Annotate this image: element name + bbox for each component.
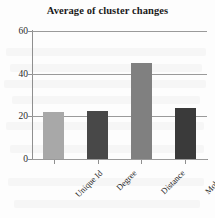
plot-area [32, 31, 207, 159]
x-axis-category-label: Mobility [203, 168, 215, 196]
chart-title: Average of cluster changes [0, 5, 215, 16]
y-axis-tick-mark [28, 74, 32, 75]
y-axis-tick-label: 40 [4, 69, 28, 79]
x-axis-category-label: Unique Id [73, 168, 104, 199]
gridline [32, 159, 207, 160]
bar [87, 111, 108, 159]
y-axis-tick-labels: 0204060 [0, 0, 28, 218]
y-axis-tick-mark [28, 116, 32, 117]
y-axis-tick-label: 20 [4, 111, 28, 121]
y-axis-tick-label: 0 [4, 154, 28, 164]
x-axis-tick-mark [141, 160, 142, 164]
bar-chart-figure: Average of cluster changes 0204060 Uniqu… [0, 0, 215, 218]
y-axis-tick-mark [28, 159, 32, 160]
x-axis-tick-mark [185, 160, 186, 164]
x-axis-category-label: Distance [159, 168, 187, 196]
x-axis-category-label: Degree [114, 168, 138, 192]
bar [43, 112, 64, 159]
y-axis-tick-label: 60 [4, 26, 28, 36]
gridline [32, 31, 207, 32]
scan-artifact [14, 200, 200, 208]
gridline [32, 74, 207, 75]
y-axis-tick-mark [28, 31, 32, 32]
x-axis-tick-mark [54, 160, 55, 164]
bar [131, 63, 152, 159]
x-axis-tick-mark [98, 160, 99, 164]
bar [175, 108, 196, 159]
